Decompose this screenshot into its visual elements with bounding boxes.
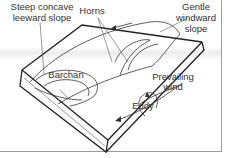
block-front-left [20,70,108,152]
eddy-label: Eddy [132,100,154,111]
horns-leader-1 [98,18,112,62]
windward-label-line1: Gentle [182,1,210,12]
horn-left [35,88,82,100]
horns-leader-2 [98,18,128,62]
horn-right-curve [115,40,150,75]
flow-arrowhead [115,116,121,122]
block-right-edge [108,42,202,140]
leeward-leader [40,22,44,74]
leeward-label-line2: leeward slope [13,12,72,23]
horns-label: Horns [79,5,105,16]
windward-label-line2: windward [175,12,216,23]
block-front-right [106,42,204,152]
leeward-label-line1: Steep concave [11,1,74,12]
barchan-label: Barchan [48,69,83,80]
barchan-diagram: Steep concave leeward slope Horns Gentle… [0,0,226,158]
wind-label-line2: wind [162,81,183,92]
block-top-edge [22,25,202,70]
windward-label-line3: slope [185,23,208,34]
horn-right-curve2 [128,44,158,70]
